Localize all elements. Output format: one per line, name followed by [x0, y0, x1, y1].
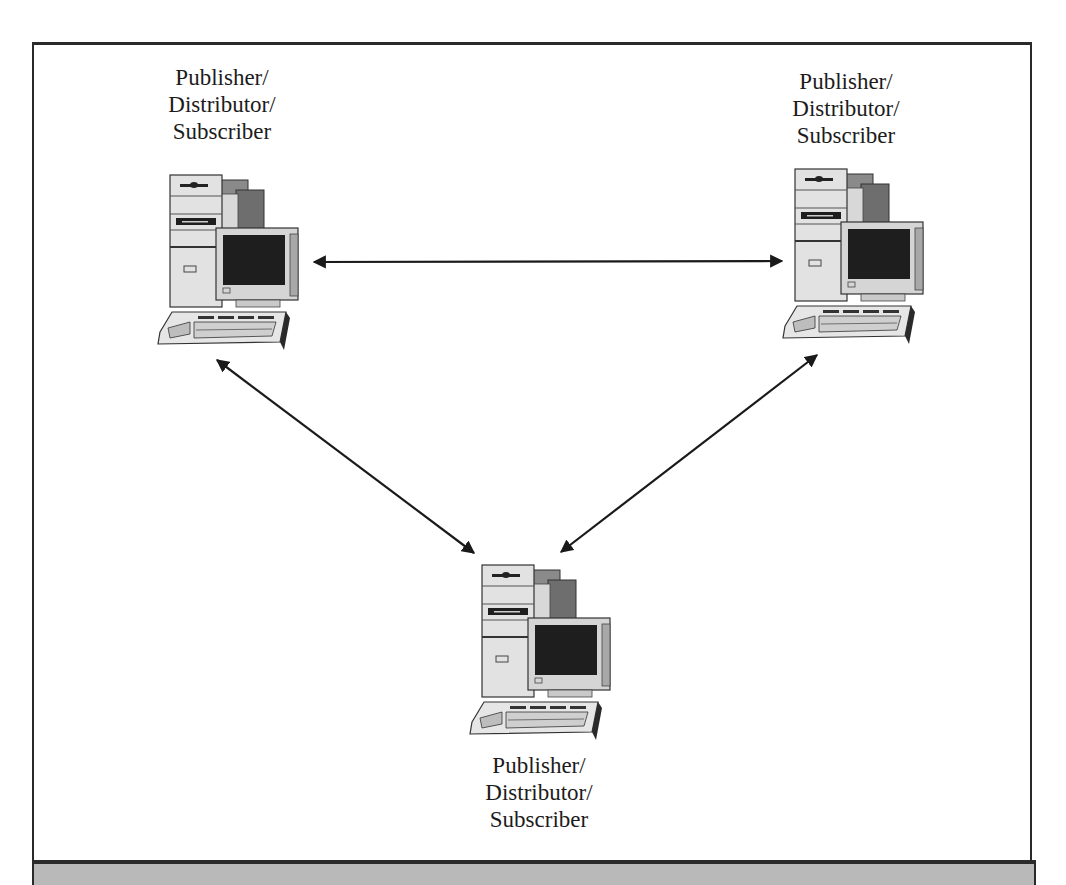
- connections: [0, 0, 1066, 885]
- desktop-computer-icon: [150, 172, 300, 352]
- arrow-top-left-to-bottom: [217, 360, 474, 553]
- arrow-top-left-to-top-right: [314, 261, 782, 262]
- desktop-computer-icon: [775, 166, 925, 346]
- arrow-top-right-to-bottom: [561, 355, 817, 552]
- desktop-computer-icon: [462, 562, 612, 742]
